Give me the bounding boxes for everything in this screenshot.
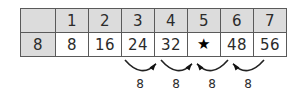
step-arc-4-label: 8	[244, 77, 252, 91]
product-cell-2: 16	[89, 33, 122, 57]
product-cell-7: 56	[254, 33, 287, 57]
step-arc-4-path	[233, 60, 264, 71]
step-arc-3: 8	[197, 60, 228, 91]
column-header-7: 7	[254, 9, 287, 33]
step-arc-3-path	[197, 60, 228, 71]
step-arc-2-label: 8	[172, 77, 180, 91]
table-row: 8 8 16 24 32 ★ 48 56	[21, 33, 287, 57]
column-header-2: 2	[89, 9, 122, 33]
row-header-8: 8	[21, 33, 56, 57]
missing-value-star-cell: ★	[188, 33, 221, 57]
product-cell-1: 8	[56, 33, 89, 57]
step-arc-1-arrowhead-right	[150, 63, 157, 71]
step-arc-4-arrowhead-left	[233, 63, 240, 71]
step-arc-1-label: 8	[136, 77, 144, 91]
table-header-row: 1 2 3 4 5 6 7	[21, 9, 287, 33]
column-header-1: 1	[56, 9, 89, 33]
multiplication-table-container: 1 2 3 4 5 6 7 8 8 16 24 32 ★ 48 56	[20, 8, 287, 57]
worksheet-canvas: 1 2 3 4 5 6 7 8 8 16 24 32 ★ 48 56	[0, 0, 300, 95]
step-arc-2-path	[161, 60, 192, 71]
step-arc-3-label: 8	[208, 77, 216, 91]
step-arc-4: 8	[233, 60, 264, 91]
column-header-3: 3	[122, 9, 155, 33]
step-arc-1-path	[125, 60, 156, 71]
star-icon: ★	[197, 37, 211, 52]
step-arc-3-arrowhead-left	[197, 63, 204, 71]
multiplication-table: 1 2 3 4 5 6 7 8 8 16 24 32 ★ 48 56	[20, 8, 287, 57]
step-arc-2-arrowhead-right	[186, 63, 193, 71]
column-header-5: 5	[188, 9, 221, 33]
step-arc-2: 8	[161, 60, 192, 91]
step-arc-1: 8	[125, 60, 156, 91]
product-cell-6: 48	[221, 33, 254, 57]
column-header-6: 6	[221, 9, 254, 33]
column-header-4: 4	[155, 9, 188, 33]
product-cell-4: 32	[155, 33, 188, 57]
table-corner-cell	[21, 9, 56, 33]
product-cell-3: 24	[122, 33, 155, 57]
